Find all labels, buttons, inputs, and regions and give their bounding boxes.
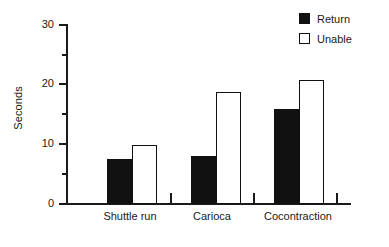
y-tick-minor-15 bbox=[62, 113, 67, 115]
y-tick-label-20: 20 bbox=[16, 77, 54, 89]
y-tick-minor-25 bbox=[62, 54, 67, 56]
y-tick-label-0: 0 bbox=[16, 197, 54, 209]
bar-unable-shuttle-run bbox=[132, 145, 157, 204]
legend-entry-unable: Unable bbox=[299, 30, 352, 47]
y-tick-20 bbox=[59, 83, 67, 85]
x-category-label-cocontraction: Cocontraction bbox=[243, 210, 353, 222]
bar-return-carioca bbox=[191, 156, 216, 204]
y-tick-minor-5 bbox=[62, 173, 67, 175]
y-tick-label-30: 30 bbox=[16, 18, 54, 30]
y-tick-10 bbox=[59, 143, 67, 145]
bar-unable-cocontraction bbox=[299, 80, 324, 204]
bar-return-shuttle-run bbox=[107, 159, 132, 204]
bar-unable-carioca bbox=[216, 92, 241, 204]
y-tick-30 bbox=[59, 24, 67, 26]
bar-chart-figure: Seconds 0 10 20 30 Shuttle run Carioca C… bbox=[0, 0, 389, 247]
legend-label-return: Return bbox=[317, 13, 350, 25]
legend-entry-return: Return bbox=[299, 10, 352, 27]
x-tick-end bbox=[336, 193, 338, 204]
x-tick-start bbox=[66, 193, 68, 204]
filled-square-swatch-icon bbox=[299, 13, 310, 24]
chart-legend: Return Unable bbox=[299, 10, 352, 50]
legend-label-unable: Unable bbox=[317, 33, 352, 45]
y-tick-label-10: 10 bbox=[16, 137, 54, 149]
bar-return-cocontraction bbox=[274, 109, 299, 204]
x-tick-sep-1 bbox=[170, 193, 172, 204]
x-tick-sep-2 bbox=[253, 193, 255, 204]
open-square-swatch-icon bbox=[299, 33, 310, 44]
